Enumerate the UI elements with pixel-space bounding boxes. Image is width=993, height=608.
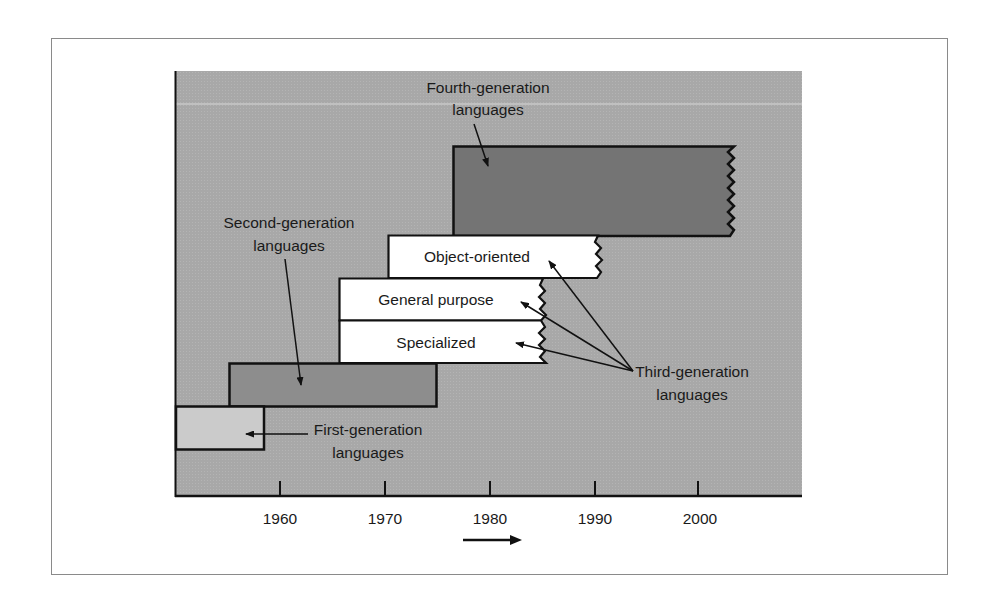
bar-fourth-generation (454, 147, 735, 237)
annotation-second-generation-line1: Second-generation (224, 214, 355, 231)
annotation-first-generation-line1: First-generation (314, 421, 423, 438)
tick-label-1980: 1980 (473, 510, 508, 527)
annotation-second-generation-line2: languages (253, 237, 325, 254)
label-specialized: Specialized (396, 334, 475, 351)
annotation-third-generation-line1: Third-generation (635, 363, 749, 380)
annotation-fourth-generation-line1: Fourth-generation (426, 79, 549, 96)
tick-label-2000: 2000 (683, 510, 718, 527)
annotation-third-generation-line2: languages (656, 386, 728, 403)
language-generations-timeline: 1960 1970 1980 1990 2000 Object-oriented… (0, 0, 993, 608)
bar-first-generation (176, 407, 264, 450)
tick-label-1970: 1970 (368, 510, 403, 527)
label-object-oriented: Object-oriented (424, 248, 530, 265)
tick-label-1990: 1990 (578, 510, 613, 527)
tick-label-1960: 1960 (263, 510, 298, 527)
time-arrow-right-icon (463, 535, 522, 545)
annotation-first-generation-line2: languages (332, 444, 404, 461)
annotation-fourth-generation-line2: languages (452, 101, 524, 118)
bar-second-generation (230, 364, 437, 407)
label-general-purpose: General purpose (378, 291, 493, 308)
